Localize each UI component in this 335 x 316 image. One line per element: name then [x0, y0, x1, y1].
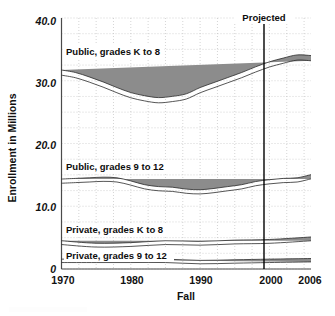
series-label-public-k8: Public, grades K to 8 [64, 45, 164, 58]
chart-svg: 40.0 30.0 20.0 10.0 0 1970 1980 1990 200… [0, 0, 335, 316]
projected-annotation: Projected [234, 11, 294, 24]
series-label-text: Private, grades K to 8 [66, 224, 163, 235]
page-artifact [9, 307, 87, 312]
x-tick-1990: 1990 [189, 274, 213, 286]
y-tick-10: 10.0 [36, 201, 57, 213]
y-tick-20: 20.0 [35, 139, 57, 151]
x-tick-2000: 2000 [259, 274, 283, 286]
series-label-private-912: Private, grades 9 to 12 [64, 249, 174, 262]
x-axis-title: Fall [177, 290, 195, 302]
enrollment-line-chart: 40.0 30.0 20.0 10.0 0 1970 1980 1990 200… [0, 0, 335, 316]
series-label-text: Public, grades 9 to 12 [66, 161, 164, 172]
x-tick-1970: 1970 [51, 274, 75, 286]
x-tick-2006: 2006 [298, 274, 322, 286]
projected-label: Projected [242, 12, 285, 23]
series-label-public-912: Public, grades 9 to 12 [64, 160, 168, 173]
y-tick-30: 30.0 [36, 77, 57, 89]
y-tick-0: 0 [50, 263, 56, 275]
series-label-private-k8: Private, grades K to 8 [64, 223, 168, 236]
series-label-text: Private, grades 9 to 12 [66, 250, 167, 261]
y-tick-40: 40.0 [35, 15, 57, 27]
y-axis-title: Enrollment in Millions [6, 93, 18, 202]
series-label-text: Public, grades K to 8 [66, 46, 160, 57]
x-tick-1980: 1980 [120, 274, 144, 286]
